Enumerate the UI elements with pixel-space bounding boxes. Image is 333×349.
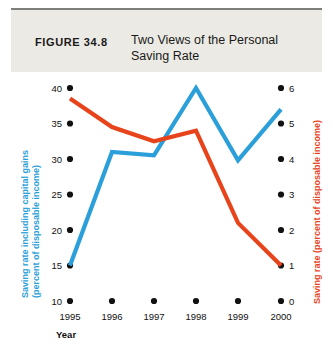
left-tick-label: 40 <box>51 83 62 94</box>
baseline-dot <box>193 298 199 304</box>
x-axis-ticks: 1995 1996 1997 1998 1999 2000 <box>59 311 291 322</box>
left-axis-ticks: 40 35 30 25 20 15 10 <box>51 83 73 307</box>
x-tick-label: 1999 <box>227 311 248 322</box>
left-axis-title-group: Saving rate including capital gains (per… <box>20 150 41 298</box>
right-axis-title: Saving rate (percent of disposable incom… <box>312 120 322 304</box>
left-tick-dot <box>67 85 73 91</box>
right-tick-dot <box>278 85 284 91</box>
left-tick-label: 10 <box>51 296 62 307</box>
right-tick-dot <box>278 298 284 304</box>
right-axis-ticks: 6 5 4 3 2 1 0 <box>278 83 294 307</box>
figure-title-line-2: Saving Rate <box>131 49 199 63</box>
figure-number-label: FIGURE 34.8 <box>35 36 108 48</box>
left-tick-dot <box>67 298 73 304</box>
baseline-dot <box>109 298 115 304</box>
right-tick-dot <box>278 191 284 197</box>
right-tick-label: 0 <box>289 296 294 307</box>
left-axis-title-line-2: (percent of disposable income) <box>31 165 41 298</box>
right-tick-dot <box>278 120 284 126</box>
x-tick-label: 1996 <box>101 311 122 322</box>
x-tick-label: 1997 <box>143 311 164 322</box>
figure-title-line-1: Two Views of the Personal <box>131 33 278 47</box>
left-axis-title-line-1: Saving rate including capital gains <box>20 150 30 298</box>
left-tick-label: 25 <box>51 189 62 200</box>
right-tick-label: 1 <box>289 260 294 271</box>
baseline-dot <box>235 298 241 304</box>
plot-area: 40 35 30 25 20 15 10 6 5 <box>0 70 333 349</box>
left-tick-dot <box>67 227 73 233</box>
left-tick-label: 30 <box>51 154 62 165</box>
x-tick-label: 1998 <box>185 311 206 322</box>
figure-container: FIGURE 34.8 Two Views of the Personal Sa… <box>0 0 333 349</box>
baseline-dot <box>151 298 157 304</box>
left-tick-label: 35 <box>51 118 62 129</box>
right-tick-dot <box>278 156 284 162</box>
right-tick-label: 4 <box>289 154 294 165</box>
x-tick-label: 2000 <box>270 311 291 322</box>
x-tick-label: 1995 <box>59 311 80 322</box>
figure-title: Two Views of the Personal Saving Rate <box>131 32 321 64</box>
right-tick-label: 2 <box>289 225 294 236</box>
left-tick-label: 15 <box>51 260 62 271</box>
series-line-saving-rate-including-capital-gains <box>70 88 281 266</box>
right-tick-label: 3 <box>289 189 294 200</box>
left-tick-dot <box>67 156 73 162</box>
left-tick-dot <box>67 191 73 197</box>
baseline-x-dots <box>109 298 241 304</box>
right-tick-dot <box>278 227 284 233</box>
right-tick-label: 5 <box>289 118 294 129</box>
left-tick-label: 20 <box>51 225 62 236</box>
line-chart-svg: 40 35 30 25 20 15 10 6 5 <box>0 70 333 349</box>
right-tick-label: 6 <box>289 83 294 94</box>
x-axis-title: Year <box>56 329 76 340</box>
figure-header-band: FIGURE 34.8 Two Views of the Personal Sa… <box>11 8 322 72</box>
left-tick-dot <box>67 120 73 126</box>
